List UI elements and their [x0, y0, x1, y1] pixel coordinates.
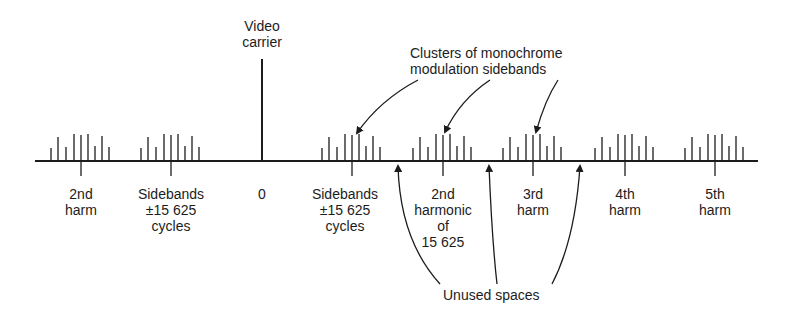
- axis-label-upper-sidebands: Sidebands±15 625cycles: [300, 186, 390, 234]
- axis-label-lower-2nd-harm: 2ndharm: [36, 186, 126, 218]
- arrow-unused-2: [489, 166, 497, 284]
- axis-label-line: harmonic: [398, 202, 488, 218]
- unused-spaces-text: Unused spaces: [443, 287, 540, 303]
- axis-label-zero: 0: [217, 186, 307, 202]
- axis-label-line: cycles: [300, 218, 390, 234]
- axis-label-line: harm: [580, 202, 670, 218]
- axis-label-line: 3rd: [488, 186, 578, 202]
- arrow-cluster-2: [445, 80, 490, 132]
- spectrum-diagram: [0, 0, 789, 321]
- axis-label-upper-3rd-harm: 3rdharm: [488, 186, 578, 218]
- axis-label-upper-2nd-harmonic: 2ndharmonicof15 625: [398, 186, 488, 250]
- clusters-label: Clusters of monochrome modulation sideba…: [410, 45, 563, 77]
- arrow-unused-3: [552, 166, 580, 284]
- axis-label-line: Sidebands: [300, 186, 390, 202]
- axis-label-line: 2nd: [398, 186, 488, 202]
- axis-label-line: cycles: [126, 218, 216, 234]
- axis-label-line: Sidebands: [126, 186, 216, 202]
- axis-label-line: 0: [217, 186, 307, 202]
- unused-spaces-label: Unused spaces: [443, 287, 540, 303]
- video-carrier-label-line2: carrier: [232, 34, 292, 50]
- clusters-label-line2: modulation sidebands: [410, 61, 563, 77]
- axis-label-line: ±15 625: [300, 202, 390, 218]
- axis-label-line: harm: [488, 202, 578, 218]
- clusters-label-line1: Clusters of monochrome: [410, 45, 563, 61]
- arrow-cluster-1: [357, 80, 418, 133]
- axis-label-line: of: [398, 218, 488, 234]
- axis-label-upper-5th-harm: 5thharm: [670, 186, 760, 218]
- axis-label-lower-sidebands: Sidebands±15 625cycles: [126, 186, 216, 234]
- sideband-clusters: [51, 134, 743, 176]
- video-carrier-label: Video carrier: [232, 18, 292, 50]
- axis-label-line: 2nd: [36, 186, 126, 202]
- axis-label-line: ±15 625: [126, 202, 216, 218]
- video-carrier-label-line1: Video: [232, 18, 292, 34]
- axis-label-line: 15 625: [398, 234, 488, 250]
- axis-label-upper-4th-harm: 4thharm: [580, 186, 670, 218]
- axis-label-line: 5th: [670, 186, 760, 202]
- axis-label-line: 4th: [580, 186, 670, 202]
- axis-label-line: harm: [670, 202, 760, 218]
- arrow-cluster-3: [536, 80, 558, 132]
- axis-label-line: harm: [36, 202, 126, 218]
